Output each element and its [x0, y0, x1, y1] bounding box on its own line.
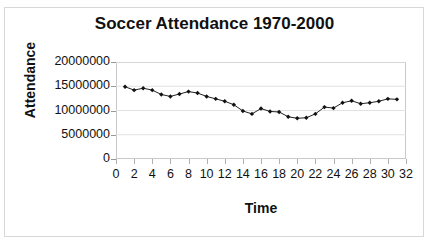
- x-axis-tick-mark: [170, 159, 171, 164]
- y-axis-tick-label: 15000000: [24, 79, 110, 91]
- x-axis-tick-mark: [315, 159, 316, 164]
- y-axis-tick-mark: [111, 111, 116, 112]
- x-axis-tick-mark: [297, 159, 298, 164]
- x-axis-tick-mark: [261, 159, 262, 164]
- x-axis-tick-mark: [207, 159, 208, 164]
- x-axis-tick-label: 32: [394, 167, 418, 181]
- data-point-marker: [186, 89, 190, 93]
- data-point-marker: [132, 88, 136, 92]
- data-point-marker: [331, 106, 335, 110]
- x-axis-title: Time: [116, 200, 406, 216]
- y-axis-tick-label: 5000000: [24, 128, 110, 140]
- data-point-marker: [195, 91, 199, 95]
- x-axis-tick-mark: [116, 159, 117, 164]
- plot-svg: [116, 62, 406, 159]
- data-point-marker: [168, 94, 172, 98]
- data-point-marker: [123, 85, 127, 89]
- data-point-marker: [150, 88, 154, 92]
- data-point-marker: [295, 116, 299, 120]
- x-axis-tick-mark: [243, 159, 244, 164]
- x-axis-tick-mark: [352, 159, 353, 164]
- x-axis-tick-mark: [152, 159, 153, 164]
- x-axis-tick-mark: [334, 159, 335, 164]
- data-point-marker: [340, 101, 344, 105]
- data-point-marker: [286, 115, 290, 119]
- data-line: [125, 87, 397, 119]
- data-point-marker: [250, 112, 254, 116]
- data-point-marker: [159, 92, 163, 96]
- data-point-marker: [358, 102, 362, 106]
- y-axis-tick-label: 0: [24, 152, 110, 164]
- y-axis-tick-label: 20000000: [24, 55, 110, 67]
- data-point-marker: [268, 109, 272, 113]
- data-point-marker: [213, 97, 217, 101]
- data-point-marker: [223, 99, 227, 103]
- x-axis-tick-mark: [370, 159, 371, 164]
- x-axis-tick-mark: [225, 159, 226, 164]
- y-axis-tick-label: 10000000: [24, 104, 110, 116]
- data-point-marker: [368, 101, 372, 105]
- data-point-marker: [377, 99, 381, 103]
- data-point-marker: [204, 94, 208, 98]
- y-axis-tick-mark: [111, 135, 116, 136]
- y-axis-tick-mark: [111, 159, 116, 160]
- y-axis-tick-mark: [111, 86, 116, 87]
- x-axis-tick-mark: [134, 159, 135, 164]
- y-axis-tick-mark: [111, 62, 116, 63]
- x-axis-tick-mark: [388, 159, 389, 164]
- data-point-marker: [395, 97, 399, 101]
- data-point-marker: [177, 92, 181, 96]
- y-axis-tick-labels: 05000000100000001500000020000000: [22, 0, 110, 244]
- chart-screenshot: Soccer Attendance 1970-2000 Attendance 0…: [0, 0, 429, 244]
- x-axis-tick-mark: [279, 159, 280, 164]
- x-axis-tick-mark: [189, 159, 190, 164]
- data-point-marker: [386, 97, 390, 101]
- data-point-marker: [349, 99, 353, 103]
- data-point-marker: [304, 116, 308, 120]
- x-axis-tick-mark: [406, 159, 407, 164]
